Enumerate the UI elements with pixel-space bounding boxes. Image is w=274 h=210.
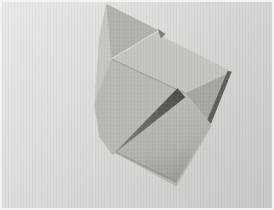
origami-photo (0, 0, 274, 210)
photo-frame (0, 0, 274, 210)
photo-background (2, 2, 272, 208)
paper-svg (2, 2, 272, 208)
